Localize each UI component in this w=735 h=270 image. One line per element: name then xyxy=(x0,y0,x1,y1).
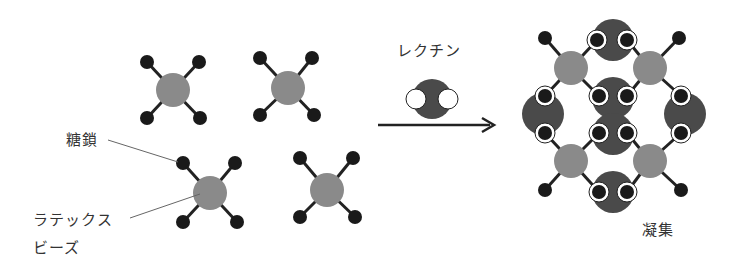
sugar-chain-icon xyxy=(307,108,321,122)
sugar-chain-icon xyxy=(140,55,154,69)
latex-bead-label-line1: ラテックス xyxy=(33,208,113,229)
latex-bead-icon xyxy=(554,144,588,178)
latex-bead-icon xyxy=(193,176,227,210)
reaction-arrow-icon xyxy=(378,118,494,132)
sugar-chain-icon xyxy=(293,151,307,165)
latex-bead-icon xyxy=(633,144,667,178)
sugar-chain-icon xyxy=(305,51,319,65)
sugar-chain-icon xyxy=(293,210,307,224)
sugar-chain-icon xyxy=(230,215,244,229)
latex-bead-icon xyxy=(310,173,344,207)
sugar-chain-icon xyxy=(192,55,206,69)
sugar-chain-icon xyxy=(228,156,242,170)
latex-bead-icon xyxy=(271,71,305,105)
sugar-chain-leader-line xyxy=(108,140,178,162)
lectin-label: レクチン xyxy=(397,39,461,60)
sugar-chain-icon xyxy=(253,51,267,65)
latex-bead-icon xyxy=(554,51,588,85)
aggregate xyxy=(522,19,706,213)
sugar-chain-label: 糖鎖 xyxy=(66,128,98,149)
sugar-chain-icon xyxy=(346,151,360,165)
latex-bead-icon xyxy=(156,73,190,107)
latex-bead-icon xyxy=(633,51,667,85)
sugar-chain-icon xyxy=(176,156,190,170)
latex-bead-label-line2: ビーズ xyxy=(33,236,80,257)
sugar-chain-icon xyxy=(253,108,267,122)
sugar-chain-icon xyxy=(140,111,154,125)
sugar-chain-icon xyxy=(348,210,362,224)
lectin-agglutination-diagram xyxy=(0,0,735,270)
lectin-icon xyxy=(406,79,458,119)
aggregation-label: 凝集 xyxy=(642,218,674,239)
sugar-chain-icon xyxy=(176,215,190,229)
sugar-chain-icon xyxy=(193,111,207,125)
